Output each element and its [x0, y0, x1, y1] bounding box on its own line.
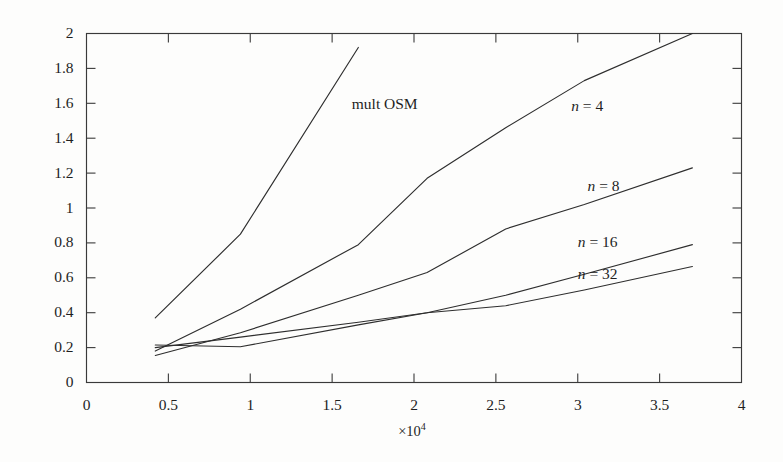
- y-tick-label: 0: [66, 373, 74, 390]
- y-tick-label: 0.6: [54, 268, 74, 285]
- x-tick-label: 2.5: [486, 396, 506, 413]
- y-tick-label: 0.8: [54, 233, 74, 250]
- series-line: [155, 245, 692, 348]
- x-tick-label: 1: [246, 396, 254, 413]
- x-tick-label: 3.5: [650, 396, 670, 413]
- y-tick-label: 0.2: [54, 338, 73, 355]
- x-tick-label: 0.5: [159, 396, 179, 413]
- x-tick-label: 4: [738, 396, 746, 413]
- series-label: n = 8: [588, 177, 620, 194]
- x-axis-tick-labels: 00.511.522.533.54: [83, 396, 746, 413]
- y-tick-label: 1.4: [54, 129, 74, 146]
- x-tick-label: 2: [410, 396, 418, 413]
- chart-figure: 00.20.40.60.811.21.41.61.82 00.511.522.5…: [0, 0, 783, 462]
- y-axis-tick-labels: 00.20.40.60.811.21.41.61.82: [54, 24, 74, 390]
- series-label: n = 32: [578, 265, 618, 282]
- y-tick-label: 1: [66, 199, 74, 216]
- y-tick-label: 2: [66, 24, 74, 41]
- x-tick-label: 1.5: [322, 396, 342, 413]
- series-label: mult OSM: [352, 95, 418, 112]
- x-axis-ticks: [168, 34, 659, 383]
- x-multiplier-text: ×104: [398, 421, 426, 439]
- series-label: n = 16: [578, 233, 618, 250]
- y-tick-label: 1.2: [54, 164, 73, 181]
- plot-frame: [87, 34, 742, 383]
- y-tick-label: 1.8: [54, 59, 74, 76]
- y-tick-label: 1.6: [54, 94, 74, 111]
- data-series-lines: [155, 34, 692, 356]
- series-annotations: mult OSMn = 4n = 8n = 16n = 32: [352, 95, 620, 281]
- x-tick-label: 3: [574, 396, 582, 413]
- series-label: n = 4: [571, 97, 603, 114]
- series-line: [155, 168, 692, 356]
- x-tick-label: 0: [83, 396, 91, 413]
- x-axis-multiplier-label: ×104: [398, 421, 426, 439]
- line-chart-svg: 00.20.40.60.811.21.41.61.82 00.511.522.5…: [0, 0, 783, 462]
- y-tick-label: 0.4: [54, 303, 74, 320]
- series-line: [155, 47, 358, 317]
